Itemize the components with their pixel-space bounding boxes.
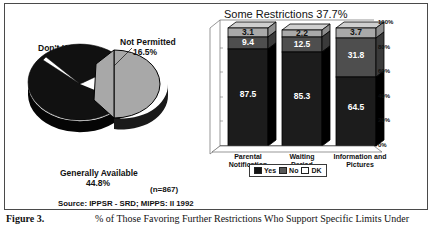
bar3-value-dk: 3.7	[336, 27, 376, 37]
source-note: Source: IPPSR - SRD; MIPPS: II 1992	[58, 200, 194, 208]
legend-label-dk: DK	[311, 167, 321, 174]
bar2-value-no: 12.5	[282, 39, 322, 49]
y-tick-label-20: 20%	[378, 117, 390, 123]
legend-label-yes: Yes	[264, 167, 276, 174]
chart-legend: Yes No DK	[249, 164, 327, 177]
pie-chart: Don't Know 1.0% Not Permitted 16.5% Gene…	[10, 26, 206, 144]
legend-swatch-no	[279, 167, 287, 174]
legend-swatch-dk	[301, 167, 309, 174]
legend-swatch-yes	[254, 167, 262, 174]
category-label-information-1: Information and	[324, 153, 396, 160]
bar1-value-dk: 3.1	[228, 27, 268, 37]
pie-label-generally-available: Generally Available	[60, 169, 138, 178]
y-tick-label-80: 80%	[378, 44, 390, 50]
bar1-value-no: 9.4	[228, 37, 268, 47]
y-tick-marks-left	[220, 48, 223, 121]
legend-item-no: No	[279, 167, 298, 174]
bar3-value-yes: 64.5	[336, 102, 376, 112]
bar-chart: Some Restrictions 37.7%	[206, 6, 402, 186]
legend-label-no: No	[289, 167, 298, 174]
pie-slice-some-restrictions	[114, 50, 160, 118]
bar3-seg-yes-side	[376, 71, 384, 146]
bar1-value-yes: 87.5	[228, 89, 268, 99]
legend-item-yes: Yes	[254, 167, 276, 174]
bar2-seg-yes-side	[322, 46, 330, 146]
figure-caption: % of Those Favoring Further Restrictions…	[95, 213, 409, 224]
y-tick-label-100: 100%	[378, 19, 393, 25]
y-tick-label-40: 40%	[378, 93, 390, 99]
y-tick-label-0: 0%	[378, 142, 387, 148]
y-tick-label-60: 60%	[378, 68, 390, 74]
pie-label-not-permitted: Not Permitted	[120, 38, 176, 47]
plot-floor	[212, 146, 382, 152]
pie-sample-size: (n=867)	[150, 186, 178, 194]
category-label-information-2: Pictures	[324, 161, 396, 168]
bar2-value-yes: 85.3	[282, 91, 322, 101]
bar3-value-no: 31.8	[336, 50, 376, 60]
pie-value-not-permitted: 16.5%	[133, 48, 157, 57]
pie-label-dont-know: Don't Know	[38, 44, 85, 53]
bar2-value-dk: 2.2	[282, 28, 322, 38]
pie-value-generally-available: 44.8%	[86, 179, 110, 188]
callout-left-wall	[210, 20, 220, 154]
bar1-seg-yes-side	[268, 43, 276, 146]
figure-root: Don't Know 1.0% Not Permitted 16.5% Gene…	[0, 0, 433, 230]
figure-number: Figure 3.	[6, 213, 44, 224]
pie-value-dont-know: 1.0%	[55, 54, 74, 63]
legend-item-dk: DK	[301, 167, 321, 174]
